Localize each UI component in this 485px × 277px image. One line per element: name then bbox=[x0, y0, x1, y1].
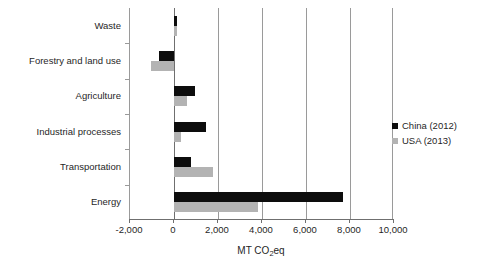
y-axis-tick bbox=[125, 185, 129, 186]
bar-china bbox=[174, 157, 191, 167]
legend-label: USA (2013) bbox=[402, 136, 451, 146]
x-axis-tick-label: 2,000 bbox=[205, 224, 229, 236]
gridline bbox=[350, 8, 351, 220]
bar-usa bbox=[174, 96, 187, 106]
plot-area bbox=[129, 8, 393, 220]
x-axis-tick-label: 4,000 bbox=[249, 224, 273, 236]
bar-usa bbox=[174, 26, 177, 36]
bar-usa bbox=[174, 132, 181, 142]
x-axis-title: MT CO2eq bbox=[129, 245, 393, 256]
bar-usa bbox=[174, 202, 258, 212]
zero-line bbox=[174, 8, 175, 220]
legend-swatch-china-icon bbox=[392, 123, 398, 129]
x-axis-tick-label: 8,000 bbox=[337, 224, 361, 236]
gridline bbox=[218, 8, 219, 220]
x-axis-title-sub: 2 bbox=[269, 249, 273, 258]
x-axis-tick bbox=[349, 219, 350, 223]
bar-china bbox=[174, 16, 177, 26]
x-axis-tick bbox=[217, 219, 218, 223]
y-axis-tick bbox=[125, 149, 129, 150]
x-axis-title-post: eq bbox=[274, 245, 285, 256]
gridline bbox=[306, 8, 307, 220]
legend-item-china[interactable]: China (2012) bbox=[392, 118, 457, 133]
emissions-bar-chart: WasteForestry and land useAgricultureInd… bbox=[0, 0, 485, 277]
legend-item-usa[interactable]: USA (2013) bbox=[392, 133, 457, 148]
x-axis-tick bbox=[305, 219, 306, 223]
category-label-forestry-and-land-use: Forestry and land use bbox=[29, 56, 121, 66]
category-label-waste: Waste bbox=[94, 21, 121, 31]
bar-usa bbox=[174, 167, 213, 177]
bar-china bbox=[174, 122, 206, 132]
category-label-industrial-processes: Industrial processes bbox=[37, 127, 121, 137]
y-axis-tick bbox=[125, 43, 129, 44]
bar-china bbox=[174, 86, 195, 96]
bar-china bbox=[174, 192, 343, 202]
x-axis-tick bbox=[129, 219, 130, 223]
chart-legend: China (2012)USA (2013) bbox=[392, 118, 457, 148]
legend-label: China (2012) bbox=[402, 121, 457, 131]
x-axis-tick-labels: -2,00002,0004,0006,0008,00010,000 bbox=[0, 224, 485, 238]
x-axis-tick-label: 6,000 bbox=[293, 224, 317, 236]
bar-usa bbox=[151, 61, 174, 71]
x-axis-tick bbox=[261, 219, 262, 223]
category-label-transportation: Transportation bbox=[60, 162, 121, 172]
x-axis-tick-label: -2,000 bbox=[116, 224, 143, 236]
x-axis-tick bbox=[173, 219, 174, 223]
x-axis-tick-label: 0 bbox=[170, 224, 175, 236]
y-axis-tick bbox=[125, 114, 129, 115]
bar-china bbox=[159, 51, 174, 61]
category-label-agriculture: Agriculture bbox=[76, 91, 121, 101]
x-axis-title-pre: MT CO bbox=[237, 245, 269, 256]
category-label-energy: Energy bbox=[91, 197, 121, 207]
x-axis-tick-label: 10,000 bbox=[378, 224, 407, 236]
category-axis-labels: WasteForestry and land useAgricultureInd… bbox=[0, 8, 125, 220]
gridline bbox=[262, 8, 263, 220]
x-axis-tick bbox=[393, 219, 394, 223]
legend-swatch-usa-icon bbox=[392, 138, 398, 144]
y-axis-tick bbox=[125, 79, 129, 80]
